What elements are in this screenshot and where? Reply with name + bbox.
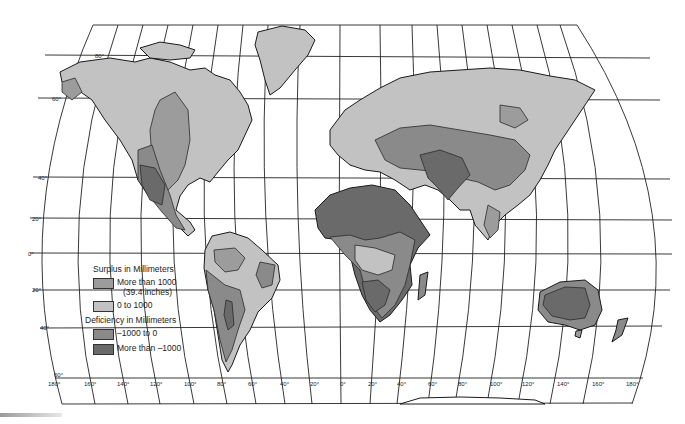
svg-text:160°: 160° xyxy=(592,381,605,387)
svg-text:0°: 0° xyxy=(28,251,34,257)
svg-text:120°: 120° xyxy=(150,381,163,387)
svg-text:60°: 60° xyxy=(52,96,62,102)
legend-label: –1000 to 0 xyxy=(117,329,157,339)
map-legend: Surplus in Millimeters More than 1000 (3… xyxy=(93,265,243,359)
world-water-balance-map: 80° 60° 40° 20° 0° 20° 40° 60° 180° 160°… xyxy=(0,0,685,424)
svg-text:100°: 100° xyxy=(490,381,503,387)
longitude-labels: 180° 160° 140° 120° 100° 80° 60° 40° 20°… xyxy=(48,381,639,387)
svg-text:140°: 140° xyxy=(557,381,570,387)
legend-deficiency-heading: Deficiency in Millimeters xyxy=(85,316,243,326)
svg-text:0°: 0° xyxy=(340,381,346,387)
svg-text:20°: 20° xyxy=(32,287,42,293)
landmass-greenland xyxy=(255,26,315,95)
legend-label: More than –1000 xyxy=(117,344,181,354)
svg-text:120°: 120° xyxy=(522,381,535,387)
legend-item-surplus-low: 0 to 1000 xyxy=(93,301,243,312)
svg-text:20°: 20° xyxy=(310,381,320,387)
legend-sublabel: (39.4 inches) xyxy=(117,288,177,298)
svg-text:180°: 180° xyxy=(48,381,61,387)
legend-swatch-deficit-high xyxy=(93,344,114,355)
svg-text:60°: 60° xyxy=(54,372,64,378)
svg-text:40°: 40° xyxy=(397,381,407,387)
svg-text:60°: 60° xyxy=(428,381,438,387)
svg-text:80°: 80° xyxy=(458,381,468,387)
legend-swatch-deficit-low xyxy=(93,329,114,340)
continent-australia xyxy=(538,280,628,342)
legend-item-surplus-high: More than 1000 (39.4 inches) xyxy=(93,278,243,298)
svg-text:40°: 40° xyxy=(280,381,290,387)
legend-item-deficit-high: More than –1000 xyxy=(93,344,243,355)
continent-north-america xyxy=(60,42,252,236)
svg-text:40°: 40° xyxy=(40,325,50,331)
svg-text:20°: 20° xyxy=(368,381,378,387)
svg-text:180°: 180° xyxy=(626,381,639,387)
svg-text:20°: 20° xyxy=(32,216,42,222)
legend-swatch-surplus-high xyxy=(93,278,114,289)
legend-label: 0 to 1000 xyxy=(117,301,152,311)
legend-swatch-surplus-low xyxy=(93,301,114,312)
legend-item-deficit-low: –1000 to 0 xyxy=(93,329,243,340)
svg-text:160°: 160° xyxy=(84,381,97,387)
legend-label: More than 1000 xyxy=(117,277,177,287)
decorative-footer-bar xyxy=(0,413,62,417)
svg-text:100°: 100° xyxy=(184,381,197,387)
svg-text:60°: 60° xyxy=(248,381,258,387)
svg-text:80°: 80° xyxy=(217,381,227,387)
svg-text:80°: 80° xyxy=(95,53,105,59)
legend-surplus-heading: Surplus in Millimeters xyxy=(93,265,243,275)
svg-text:140°: 140° xyxy=(117,381,130,387)
svg-text:40°: 40° xyxy=(38,175,48,181)
landmass-antarctica xyxy=(400,397,545,404)
